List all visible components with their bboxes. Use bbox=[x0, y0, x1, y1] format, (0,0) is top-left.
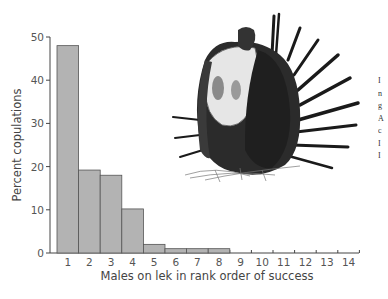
bar-1 bbox=[57, 46, 79, 253]
x-tick-label: 11 bbox=[277, 256, 290, 268]
x-tick-label: 3 bbox=[108, 256, 115, 268]
x-tick-label: 6 bbox=[172, 256, 179, 268]
x-tick-label: 13 bbox=[320, 256, 333, 268]
x-tick-label: 14 bbox=[342, 256, 356, 268]
x-tick-label: 9 bbox=[237, 256, 244, 268]
y-tick-label: 0 bbox=[37, 247, 44, 259]
bar-6 bbox=[165, 249, 187, 253]
x-tick-label: 2 bbox=[86, 256, 93, 268]
x-tick-label: 10 bbox=[256, 256, 269, 268]
y-tick-label: 30 bbox=[31, 117, 44, 129]
bar-4 bbox=[122, 209, 144, 253]
caption-letter: g bbox=[378, 100, 388, 113]
x-tick-label: 5 bbox=[151, 256, 158, 268]
x-tick-label: 1 bbox=[64, 256, 71, 268]
sage-grouse-illustration bbox=[173, 14, 358, 182]
bar-2 bbox=[79, 170, 101, 253]
y-axis-title: Percent copulations bbox=[10, 88, 24, 201]
caption-letter: I bbox=[378, 138, 388, 151]
y-tick-label: 50 bbox=[31, 31, 44, 43]
bar-3 bbox=[100, 175, 122, 253]
caption-letter: c bbox=[378, 125, 388, 138]
y-ticks: 01020304050 bbox=[31, 31, 50, 259]
bar-7 bbox=[187, 249, 209, 253]
x-tick-label: 7 bbox=[194, 256, 201, 268]
x-tick-label: 8 bbox=[216, 256, 223, 268]
caption-letter: n bbox=[378, 88, 388, 101]
y-tick-label: 20 bbox=[31, 161, 44, 173]
caption-letter: A bbox=[378, 113, 388, 126]
y-tick-label: 10 bbox=[31, 204, 44, 216]
x-tick-label: 4 bbox=[129, 256, 136, 268]
caption-letter: I bbox=[378, 150, 388, 163]
caption-fragment: IngAcII bbox=[378, 75, 388, 163]
y-tick-label: 40 bbox=[31, 74, 44, 86]
x-axis-title: Males on lek in rank order of success bbox=[100, 269, 313, 283]
bar-8 bbox=[208, 249, 230, 253]
caption-letter: I bbox=[378, 75, 388, 88]
x-tick-label: 12 bbox=[299, 256, 312, 268]
bar-5 bbox=[143, 244, 165, 253]
